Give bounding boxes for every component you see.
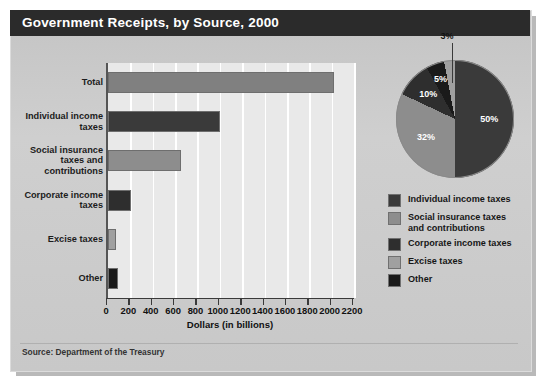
legend-swatch (388, 238, 401, 251)
legend-label: Individual income taxes (408, 194, 511, 205)
pie-label: 10% (419, 89, 437, 99)
legend-swatch (388, 212, 401, 225)
axis-tick-label: 1000 (207, 305, 228, 316)
axis-tick-label: 0 (103, 305, 108, 316)
chart-figure: Government Receipts, by Source, 2000 Tot… (0, 0, 545, 388)
axis-tick-label: 200 (121, 305, 137, 316)
legend-label: Corporate income taxes (408, 238, 512, 249)
legend-swatch (388, 194, 401, 207)
x-axis-title: Dollars (in billions) (106, 319, 354, 330)
bar (108, 72, 334, 93)
pie-chart: 50%32%10%5%3% (396, 60, 514, 178)
axis-tick-label: 2200 (342, 305, 363, 316)
legend-swatch (388, 274, 401, 287)
axis-tick-label: 600 (165, 305, 181, 316)
bar (108, 190, 131, 211)
category-label: Individual income taxes (8, 111, 103, 132)
pie-leader-line (452, 43, 453, 83)
bar (108, 268, 118, 289)
pie-label: 3% (441, 31, 454, 41)
source-note: Source: Department of the Treasury (22, 347, 164, 357)
source-divider (20, 343, 518, 344)
category-label: Corporate income taxes (8, 190, 103, 211)
legend-label: Other (408, 274, 432, 285)
legend-label: Excise taxes (408, 256, 463, 267)
legend-swatch (388, 256, 401, 269)
category-label: Excise taxes (8, 234, 103, 245)
legend-item: Excise taxes (388, 256, 520, 269)
axis-tick-label: 1200 (230, 305, 251, 316)
bar (108, 150, 181, 171)
pie-label: 50% (480, 114, 498, 124)
legend-item: Corporate income taxes (388, 238, 520, 251)
axis-tick-label: 400 (143, 305, 159, 316)
bar (108, 111, 220, 132)
plot-area (106, 63, 354, 298)
legend-item: Individual income taxes (388, 194, 520, 207)
legend-item: Other (388, 274, 520, 287)
axis-tick-label: 2000 (319, 305, 340, 316)
bar-series (108, 63, 354, 298)
legend-item: Social insurance taxes and contributions (388, 212, 520, 233)
axis-tick-label: 1800 (297, 305, 318, 316)
legend: Individual income taxesSocial insurance … (388, 194, 520, 292)
pie-label: 5% (434, 74, 447, 84)
category-label: Total (8, 77, 103, 88)
bar (108, 229, 116, 250)
category-label: Other (8, 273, 103, 284)
legend-label: Social insurance taxes and contributions (408, 212, 520, 233)
category-labels: TotalIndividual income taxesSocial insur… (8, 63, 103, 298)
category-label: Social insurance taxes and contributions (8, 145, 103, 177)
axis-tick-label: 800 (188, 305, 204, 316)
pie-label: 32% (417, 132, 435, 142)
axis-tick-label: 1400 (252, 305, 273, 316)
x-axis (106, 298, 354, 305)
gridline (354, 63, 356, 298)
axis-tick-label: 1600 (274, 305, 295, 316)
page-title: Government Receipts, by Source, 2000 (22, 15, 279, 30)
